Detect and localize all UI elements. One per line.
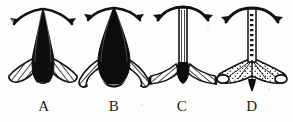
scan-artifact	[268, 88, 270, 90]
fan-knob-left	[217, 75, 229, 83]
figure-plate: A	[0, 0, 293, 122]
figure-label-c: C	[162, 97, 202, 115]
scan-artifact	[7, 23, 9, 25]
figure-label-a: A	[24, 97, 64, 115]
scan-artifact	[207, 26, 209, 28]
scan-artifact	[11, 19, 14, 22]
figure-label-d: D	[232, 97, 272, 115]
horn-left	[14, 9, 42, 24]
body	[32, 8, 54, 82]
horn-right	[44, 9, 72, 24]
figure-d	[214, 0, 290, 96]
base-flange-right	[187, 64, 216, 84]
figure-b	[74, 0, 154, 96]
base-flange-left	[150, 64, 179, 84]
fan-knob-right	[275, 75, 287, 83]
stem-beads	[250, 14, 253, 56]
figure-label-b: B	[94, 97, 134, 115]
figure-a	[4, 0, 82, 96]
figure-c	[146, 0, 220, 96]
scan-artifact	[141, 104, 143, 106]
stem-nexus	[177, 62, 190, 83]
